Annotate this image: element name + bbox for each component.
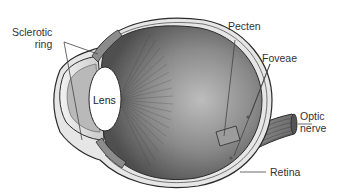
- label-retina: Retina: [270, 166, 300, 178]
- label-pecten: Pecten: [228, 20, 261, 32]
- fovea-mark: [229, 156, 232, 159]
- label-optic-nerve: Optic nerve: [300, 110, 326, 134]
- eye-diagram: Sclerotic ring Lens Pecten Foveae Optic …: [0, 0, 342, 196]
- label-foveae: Foveae: [262, 52, 297, 64]
- label-sclerotic-ring: Sclerotic ring: [12, 26, 52, 50]
- vitreous-chamber: [101, 26, 262, 180]
- label-lens: Lens: [93, 94, 116, 106]
